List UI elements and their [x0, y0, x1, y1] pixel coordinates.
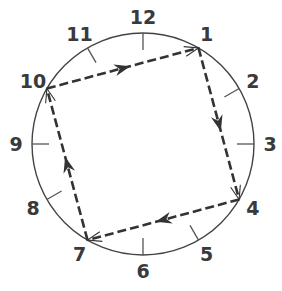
tick-2	[224, 89, 239, 98]
hour-label-12: 12	[130, 6, 156, 28]
hour-label-7: 7	[73, 243, 86, 265]
tick-11	[88, 48, 97, 63]
hour-label-3: 3	[263, 133, 276, 155]
hour-label-5: 5	[200, 243, 213, 265]
tick-8	[47, 191, 62, 200]
hour-label-11: 11	[66, 23, 92, 45]
hour-label-2: 2	[246, 70, 259, 92]
clock-face-circle	[32, 33, 254, 255]
hour-label-4: 4	[246, 197, 259, 219]
hour-label-6: 6	[136, 260, 149, 282]
square-path	[46, 47, 241, 242]
tick-5	[190, 225, 199, 240]
clock-diagram: 121234567891011	[0, 0, 282, 291]
hour-label-1: 1	[200, 23, 213, 45]
hour-label-9: 9	[9, 133, 22, 155]
hour-ticks	[32, 33, 254, 255]
hour-label-10: 10	[20, 70, 46, 92]
hour-label-8: 8	[26, 197, 39, 219]
